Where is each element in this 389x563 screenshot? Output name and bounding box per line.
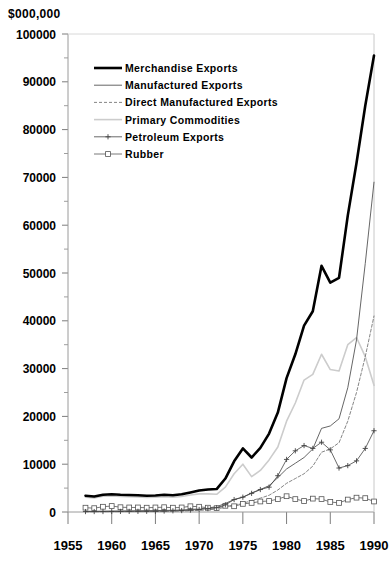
series-marker [345,463,350,468]
y-tick-label: 70000 [23,171,57,185]
series-marker [302,499,307,504]
y-axis-title: $000,000 [8,7,60,21]
x-tick-label: 1975 [228,538,257,553]
series-marker [301,443,306,448]
series-marker [363,446,368,451]
series-marker [275,497,280,502]
y-tick-label: 90000 [23,75,57,89]
legend-marker [105,134,110,139]
series-line [85,338,374,498]
y-tick-label: 60000 [23,219,57,233]
series-marker [100,509,105,514]
series-marker [240,501,245,506]
series-marker [319,497,324,502]
series-marker [328,500,333,505]
series-marker [258,487,263,492]
series-marker [336,465,341,470]
series-marker [354,458,359,463]
x-tick-label: 1960 [97,538,126,553]
series-marker [109,504,114,509]
chart-legend: Merchandise ExportsManufactured ExportsD… [94,62,278,160]
x-tick-label: 1985 [316,538,345,553]
legend-label: Primary Commodities [125,114,240,126]
y-tick-label: 40000 [23,314,57,328]
legend-label: Manufactured Exports [125,79,243,91]
legend-label: Merchandise Exports [125,62,238,74]
series-marker [345,497,350,502]
x-axis-ticks: 19551960196519701975198019851990 [54,512,389,553]
series-line [85,182,374,511]
series-marker [354,495,359,500]
exports-line-chart: $000,000 0100002000030000400005000060000… [0,0,389,563]
legend-label: Petroleum Exports [125,131,224,143]
x-tick-label: 1970 [185,538,214,553]
series-marker [249,501,254,506]
y-tick-label: 10000 [23,458,57,472]
series-marker [363,496,368,501]
series-marker [310,496,315,501]
y-tick-label: 20000 [23,410,57,424]
series-marker [249,491,254,496]
series-marker [284,494,289,499]
series-marker [293,497,298,502]
y-tick-label: 0 [49,506,56,520]
series-line [85,316,374,512]
legend-label: Direct Manufactured Exports [125,96,278,108]
series-marker [240,495,245,500]
chart-container: $000,000 0100002000030000400005000060000… [0,0,389,563]
y-tick-label: 100000 [16,28,56,42]
x-tick-label: 1965 [141,538,170,553]
series-marker [232,497,237,502]
y-tick-label: 50000 [23,267,57,281]
x-tick-label: 1980 [272,538,301,553]
y-tick-label: 80000 [23,123,57,137]
series-marker [372,499,377,504]
series-marker [232,504,237,509]
y-axis-ticks: 0100002000030000400005000060000700008000… [16,28,68,520]
series-marker [258,499,263,504]
series-marker [109,509,114,514]
legend-marker [106,152,111,157]
x-tick-label: 1990 [360,538,389,553]
series-marker [101,504,106,509]
series-marker [267,499,272,504]
y-tick-label: 30000 [23,362,57,376]
series-marker [371,428,376,433]
legend-label: Rubber [125,148,164,160]
series-marker [337,501,342,506]
x-tick-label: 1955 [54,538,83,553]
